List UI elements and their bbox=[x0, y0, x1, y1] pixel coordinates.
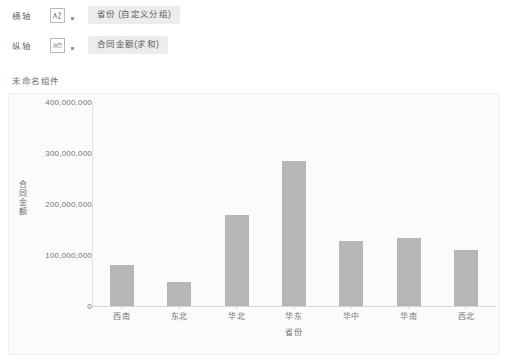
y-axis-dropdown-dot-icon[interactable] bbox=[71, 47, 74, 50]
x-axis-tick-label: 华南 bbox=[380, 310, 437, 321]
x-axis-tick-mark bbox=[179, 306, 180, 309]
x-axis-tick-mark bbox=[408, 306, 409, 309]
x-axis-tick-label: 西北 bbox=[438, 310, 495, 321]
bar-slot bbox=[93, 94, 150, 306]
x-axis-field-pill[interactable]: 省份 (自定义分组) bbox=[88, 6, 180, 24]
bar-slot bbox=[438, 94, 495, 306]
bar-series: 西南东北华北华东华中华南西北 bbox=[93, 94, 495, 306]
x-axis-dropdown-dot-icon[interactable] bbox=[71, 17, 74, 20]
plot-area: 合同金额 0100,000,000200,000,000300,000,0004… bbox=[9, 94, 501, 356]
bar-slot bbox=[265, 94, 322, 306]
bar-slot bbox=[380, 94, 437, 306]
bar[interactable] bbox=[397, 238, 421, 306]
axis-config-row-x: 横轴 省份 (自定义分组) bbox=[0, 0, 509, 30]
x-axis-tick-mark bbox=[351, 306, 352, 309]
bar[interactable] bbox=[167, 282, 191, 306]
bar-chart-axis-icon[interactable] bbox=[50, 8, 65, 23]
y-axis-tick-label: 200,000,000 bbox=[45, 200, 92, 209]
chart-panel[interactable]: 合同金额 0100,000,000200,000,000300,000,0004… bbox=[8, 93, 500, 355]
bar[interactable] bbox=[225, 215, 249, 306]
bar[interactable] bbox=[110, 265, 134, 306]
bar[interactable] bbox=[454, 250, 478, 306]
bar-slot bbox=[150, 94, 207, 306]
bar[interactable] bbox=[339, 241, 363, 306]
x-axis-tick-label: 华东 bbox=[265, 310, 322, 321]
bar-slot bbox=[323, 94, 380, 306]
bar[interactable] bbox=[282, 161, 306, 306]
x-axis-title: 省份 bbox=[92, 326, 495, 337]
x-axis-tick-label: 华中 bbox=[323, 310, 380, 321]
x-axis-tick-mark bbox=[121, 306, 122, 309]
axis-config-row-y: 纵轴 合同金额(求和) bbox=[0, 30, 509, 60]
y-axis-tick-label: 400,000,000 bbox=[45, 98, 92, 107]
y-axis-tick-label: 300,000,000 bbox=[45, 149, 92, 158]
y-axis-title: 合同金额 bbox=[17, 180, 25, 216]
axis-config-panel: 横轴 省份 (自定义分组) 纵轴 合同金额(求和) bbox=[0, 0, 509, 60]
x-axis-tick-mark bbox=[293, 306, 294, 309]
x-axis-label: 横轴 bbox=[12, 9, 42, 21]
y-axis-label: 纵轴 bbox=[12, 39, 42, 51]
x-axis-tick-label: 东北 bbox=[150, 310, 207, 321]
component-title[interactable]: 未命名组件 bbox=[12, 74, 60, 86]
x-axis-tick-mark bbox=[466, 306, 467, 309]
bar-slot bbox=[208, 94, 265, 306]
y-axis-tick-label: 100,000,000 bbox=[45, 251, 92, 260]
line-chart-axis-icon[interactable] bbox=[50, 38, 65, 53]
x-axis-tick-label: 西南 bbox=[93, 310, 150, 321]
x-axis-tick-label: 华北 bbox=[208, 310, 265, 321]
x-axis-tick-mark bbox=[236, 306, 237, 309]
y-axis-field-pill[interactable]: 合同金额(求和) bbox=[88, 36, 168, 54]
